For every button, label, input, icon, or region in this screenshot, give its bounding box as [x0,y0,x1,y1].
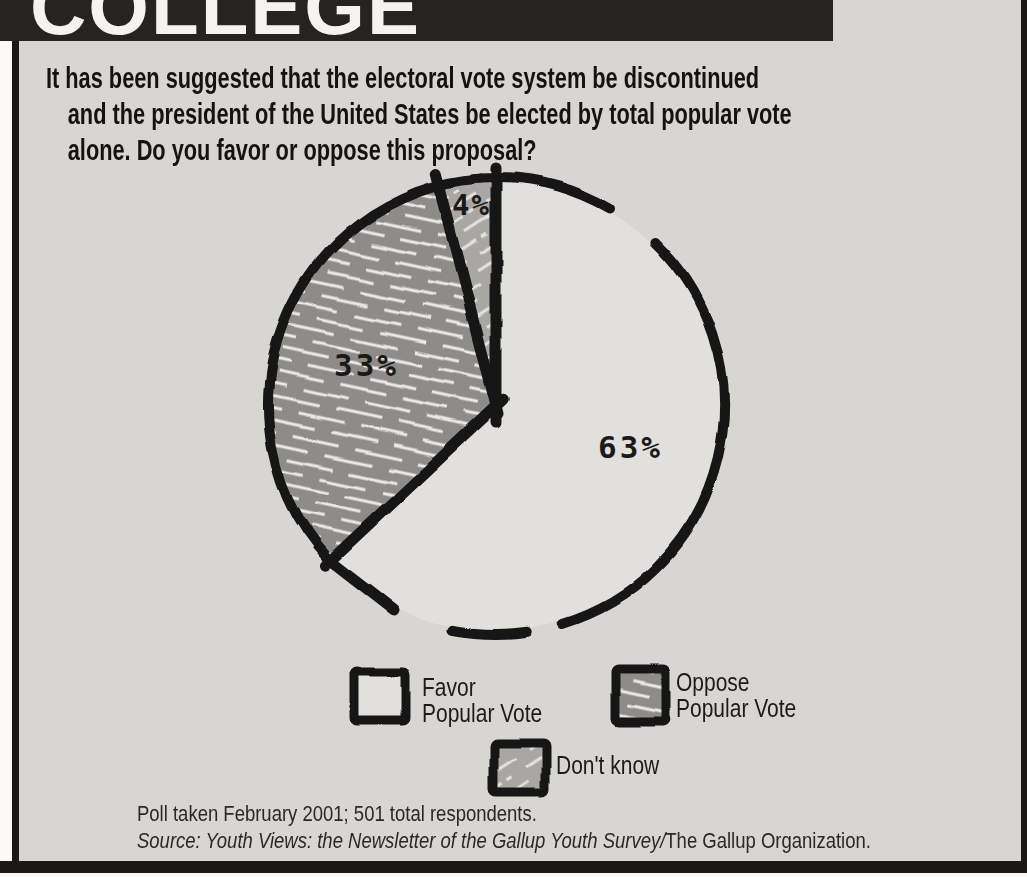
question-line-3: alone. Do you favor or oppose this propo… [46,132,946,168]
legend-swatch-2 [493,744,545,792]
legend-label-favor: Favor Popular Vote [422,674,542,726]
pie-label-oppose: 33% [334,347,399,383]
question-line-2: and the president of the United States b… [46,96,946,132]
question-line-1: It has been suggested that the electoral… [46,60,946,96]
section-title: COLLEGE [30,0,421,41]
pie-label-favor: 63% [598,429,663,465]
source-citation-roman: The Gallup Organization. [665,829,871,853]
legend-label-oppose: Oppose Popular Vote [676,669,796,721]
scanned-figure-page: COLLEGE It has been suggested that the e… [0,0,1027,877]
legend-label-oppose-line2: Popular Vote [676,695,796,721]
source-line: Source: Youth Views: the Newsletter of t… [137,828,871,855]
legend-label-favor-line2: Popular Vote [422,700,542,726]
legend-label-oppose-line1: Oppose [676,669,796,695]
legend-swatch-0 [354,671,406,721]
survey-question: It has been suggested that the electoral… [46,60,946,168]
legend-label-dont-know: Don't know [556,752,659,778]
pie-outline-arc [453,630,528,634]
pie-label-dont-know: 4% [452,188,491,222]
legend-swatch-1 [616,669,666,721]
legend-label-dont-know-line1: Don't know [556,752,659,778]
section-banner: COLLEGE [0,0,833,41]
legend-label-favor-line1: Favor [422,674,542,700]
poll-note: Poll taken February 2001; 501 total resp… [137,801,871,828]
figure-footer: Poll taken February 2001; 501 total resp… [137,801,871,855]
source-citation-italic: Source: Youth Views: the Newsletter of t… [137,829,665,853]
